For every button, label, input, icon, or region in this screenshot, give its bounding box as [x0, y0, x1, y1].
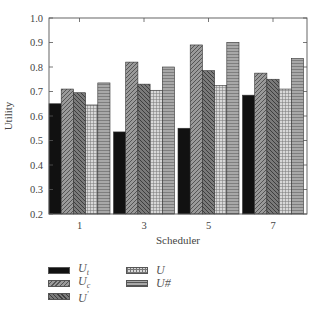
bar-uc-3 [126, 62, 138, 214]
legend-label: U' [78, 289, 88, 304]
bar-u-7 [267, 79, 279, 214]
y-tick-label: 0.2 [30, 209, 43, 220]
bar-uc-5 [190, 45, 202, 214]
bar-u-5 [202, 71, 214, 214]
bar-ut-7 [243, 95, 255, 214]
legend-swatch [126, 280, 148, 287]
legend-item-u: U [126, 264, 165, 276]
legend-item-uc: Uc [48, 277, 90, 289]
legend-item-u: U# [126, 277, 171, 289]
y-tick-label: 0.3 [30, 184, 43, 195]
bar-ut-1 [49, 104, 61, 214]
bar-u-7 [291, 58, 303, 214]
bar-u-7 [279, 89, 291, 214]
legend: UtUcU'UU# [48, 264, 248, 310]
bar-u-1 [86, 105, 98, 214]
y-tick-label: 0.6 [30, 111, 43, 122]
x-axis-title: Scheduler [156, 234, 200, 246]
y-tick-label: 0.4 [30, 160, 44, 171]
x-tick-label: 3 [141, 220, 146, 231]
bar-ut-5 [178, 128, 190, 214]
y-tick-label: 1.0 [30, 13, 43, 24]
bar-u-3 [138, 84, 150, 214]
bar-u-3 [162, 67, 174, 214]
bar-u-1 [73, 93, 85, 214]
legend-swatch [48, 267, 70, 274]
bar-uc-1 [61, 89, 73, 214]
x-tick-label: 1 [77, 220, 82, 231]
y-tick-label: 0.7 [30, 86, 43, 97]
bar-uc-7 [255, 73, 267, 214]
legend-label: U [156, 264, 165, 276]
legend-swatch [48, 280, 70, 287]
x-tick-label: 7 [270, 220, 275, 231]
bar-u-5 [227, 43, 239, 215]
y-tick-label: 0.5 [30, 135, 43, 146]
bars [49, 43, 304, 215]
y-axis-title: Utility [2, 101, 14, 130]
legend-label: U# [156, 277, 171, 289]
bar-ut-3 [114, 132, 126, 214]
bar-u-5 [215, 85, 227, 214]
bar-u-1 [98, 83, 110, 214]
legend-item-u: U' [48, 290, 88, 302]
y-tick-label: 0.8 [30, 62, 43, 73]
legend-swatch [126, 267, 148, 274]
bar-u-3 [150, 90, 162, 214]
legend-swatch [48, 293, 70, 300]
x-tick-label: 5 [206, 220, 211, 231]
y-tick-label: 0.9 [30, 37, 43, 48]
